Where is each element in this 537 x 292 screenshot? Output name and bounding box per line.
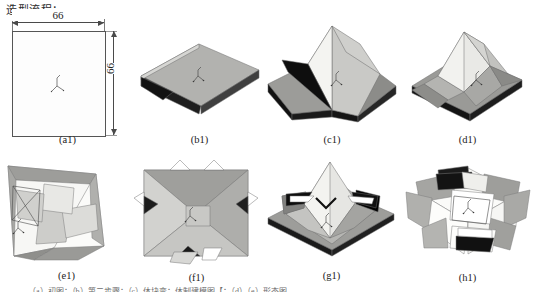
figure-root: 造型流程： 66 66 (a1) [0, 0, 537, 292]
panel-e1: (e1) [0, 152, 133, 290]
dimension-line-vertical [113, 31, 114, 135]
panel-caption-g1: (g1) [260, 270, 403, 281]
figure-footnote: （a）初图；（b）第二步骤；（c）体块变；体制建模图【；（d）（e）形态图 [28, 287, 528, 292]
panel-d1: (d1) [398, 14, 537, 152]
panel-caption-h1: (h1) [398, 272, 537, 283]
model-d1 [398, 14, 537, 132]
panel-f1: (f1) [128, 152, 265, 290]
model-c1 [262, 14, 402, 132]
panel-caption-a1: (a1) [0, 134, 135, 145]
sheet-center-marker [13, 32, 105, 136]
panel-caption-e1: (e1) [0, 270, 133, 281]
panel-b1: (b1) [133, 14, 266, 152]
dimension-line-horizontal [12, 22, 104, 23]
model-b1 [133, 14, 266, 132]
panel-caption-f1: (f1) [128, 272, 265, 283]
dimension-label-width: 66 [12, 9, 104, 21]
panel-g1: (g1) [260, 152, 403, 290]
model-g1 [260, 152, 403, 270]
model-h1 [398, 152, 537, 270]
panel-a1: 66 66 (a1) [0, 14, 135, 152]
paper-sheet-outline [12, 31, 106, 137]
panel-h1: (h1) [398, 152, 537, 290]
panel-caption-c1: (c1) [262, 134, 402, 145]
panel-c1: (c1) [262, 14, 402, 152]
panel-caption-b1: (b1) [133, 134, 266, 145]
panel-caption-d1: (d1) [398, 134, 537, 145]
model-f1 [128, 152, 265, 270]
model-e1 [0, 152, 133, 270]
